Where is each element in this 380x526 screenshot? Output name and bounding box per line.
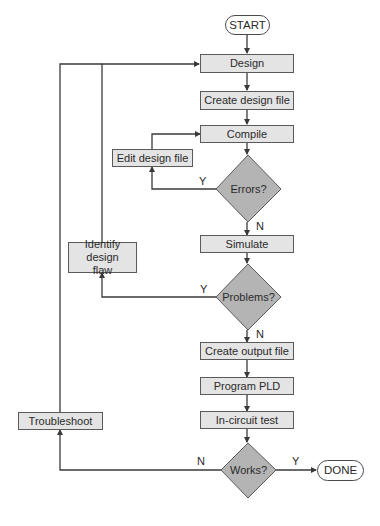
done-label: DONE <box>324 464 357 477</box>
compile-box: Compile <box>200 125 294 143</box>
works-text: Works? <box>230 464 267 476</box>
done-terminal: DONE <box>317 460 364 481</box>
compile-label: Compile <box>227 128 267 141</box>
simulate-box: Simulate <box>200 235 294 253</box>
works-decision-label: Works? <box>221 462 276 478</box>
edit-design-file-box: Edit design file <box>112 149 193 167</box>
errors-text: Errors? <box>230 183 266 195</box>
in-circuit-test-box: In-circuit test <box>200 411 294 429</box>
works-no-label: N <box>197 455 205 467</box>
connector-lines <box>0 0 380 526</box>
create-design-file-box: Create design file <box>200 91 294 110</box>
create-output-file-box: Create output file <box>200 342 294 360</box>
problems-text: Problems? <box>222 291 275 303</box>
create-design-file-label: Create design file <box>204 94 290 107</box>
edit-design-file-label: Edit design file <box>117 152 189 165</box>
errors-decision-label: Errors? <box>216 181 281 197</box>
design-flowchart: START DONE Design Create design file Com… <box>0 0 380 526</box>
start-label: START <box>229 19 266 32</box>
identify-design-flaw-label: Identify design flaw <box>75 238 130 277</box>
problems-decision-label: Problems? <box>216 289 281 305</box>
program-pld-box: Program PLD <box>200 377 294 395</box>
start-terminal: START <box>225 15 270 35</box>
problems-no-label: N <box>256 328 264 340</box>
design-label: Design <box>230 57 264 70</box>
identify-design-flaw-box: Identify design flaw <box>68 242 137 273</box>
create-output-file-label: Create output file <box>205 345 289 358</box>
problems-yes-label: Y <box>200 283 207 295</box>
in-circuit-test-label: In-circuit test <box>216 414 278 427</box>
design-box: Design <box>200 54 294 73</box>
works-yes-label: Y <box>292 455 299 467</box>
program-pld-label: Program PLD <box>214 380 281 393</box>
simulate-label: Simulate <box>226 238 269 251</box>
troubleshoot-box: Troubleshoot <box>18 412 103 430</box>
errors-no-label: N <box>256 220 264 232</box>
troubleshoot-label: Troubleshoot <box>29 415 93 428</box>
errors-yes-label: Y <box>199 175 206 187</box>
